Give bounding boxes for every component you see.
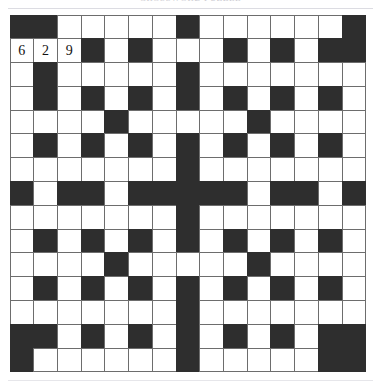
grid-cell-open[interactable] — [81, 252, 106, 277]
grid-cell-open[interactable] — [199, 110, 224, 135]
grid-cell-open[interactable] — [104, 62, 129, 87]
grid-cell-open[interactable] — [104, 229, 129, 254]
grid-cell-open[interactable] — [104, 15, 129, 40]
grid-cell-open[interactable] — [294, 205, 319, 230]
grid-cell-open[interactable] — [10, 110, 35, 135]
grid-cell-open[interactable] — [57, 86, 82, 111]
grid-cell-open[interactable] — [247, 276, 272, 301]
grid-cell-open[interactable] — [270, 157, 295, 182]
grid-cell-open[interactable] — [223, 157, 248, 182]
grid-cell-open[interactable] — [318, 300, 343, 325]
grid-cell-open[interactable] — [247, 324, 272, 349]
grid-cell-open[interactable] — [294, 157, 319, 182]
grid-cell-open[interactable] — [294, 229, 319, 254]
grid-cell-open[interactable] — [104, 300, 129, 325]
grid-cell-open[interactable] — [199, 276, 224, 301]
grid-cell-open[interactable] — [128, 300, 153, 325]
grid-cell-open[interactable] — [318, 15, 343, 40]
grid-cell-open[interactable] — [152, 205, 177, 230]
grid-cell-open[interactable] — [104, 157, 129, 182]
grid-cell-open[interactable] — [33, 181, 58, 206]
grid-cell-open[interactable] — [294, 252, 319, 277]
grid-cell-open[interactable] — [57, 62, 82, 87]
grid-cell-open[interactable] — [128, 110, 153, 135]
grid-cell-open[interactable] — [247, 62, 272, 87]
grid-cell-open[interactable] — [10, 252, 35, 277]
grid-cell-open[interactable] — [152, 324, 177, 349]
grid-cell-open[interactable] — [10, 276, 35, 301]
grid-cell-open[interactable] — [247, 38, 272, 63]
grid-cell-open[interactable] — [10, 205, 35, 230]
grid-cell-open[interactable] — [33, 205, 58, 230]
grid-cell-open[interactable] — [318, 252, 343, 277]
grid-cell-open[interactable] — [247, 181, 272, 206]
grid-cell-open[interactable] — [294, 110, 319, 135]
grid-cell-open[interactable] — [342, 157, 367, 182]
grid-cell-open[interactable] — [152, 38, 177, 63]
grid-cell-open[interactable] — [152, 276, 177, 301]
grid-cell-open[interactable] — [223, 252, 248, 277]
grid-cell-open[interactable]: 2 — [33, 38, 58, 63]
grid-cell-open[interactable] — [152, 300, 177, 325]
grid-cell-open[interactable] — [199, 15, 224, 40]
grid-cell-open[interactable] — [318, 110, 343, 135]
grid-cell-open[interactable] — [128, 62, 153, 87]
grid-cell-open[interactable] — [294, 276, 319, 301]
grid-cell-open[interactable] — [81, 110, 106, 135]
grid-cell-open[interactable] — [10, 62, 35, 87]
grid-cell-open[interactable] — [176, 252, 201, 277]
grid-cell-open[interactable] — [294, 300, 319, 325]
grid-cell-open[interactable] — [104, 205, 129, 230]
grid-cell-open[interactable] — [104, 276, 129, 301]
grid-cell-open[interactable] — [152, 133, 177, 158]
grid-cell-open[interactable] — [270, 15, 295, 40]
grid-cell-open[interactable] — [152, 15, 177, 40]
grid-cell-open[interactable] — [199, 348, 224, 373]
grid-cell-open[interactable] — [270, 110, 295, 135]
grid-cell-open[interactable] — [199, 62, 224, 87]
grid-cell-open[interactable] — [342, 133, 367, 158]
grid-cell-open[interactable] — [81, 157, 106, 182]
grid-cell-open[interactable] — [199, 300, 224, 325]
grid-cell-open[interactable] — [81, 300, 106, 325]
grid-cell-open[interactable] — [247, 348, 272, 373]
grid-cell-open[interactable] — [247, 205, 272, 230]
grid-cell-open[interactable] — [152, 110, 177, 135]
grid-cell-open[interactable] — [33, 252, 58, 277]
grid-cell-open[interactable] — [294, 324, 319, 349]
grid-cell-open[interactable] — [199, 133, 224, 158]
grid-cell-open[interactable] — [176, 110, 201, 135]
grid-cell-open[interactable] — [294, 86, 319, 111]
grid-cell-open[interactable] — [57, 133, 82, 158]
grid-cell-open[interactable] — [10, 86, 35, 111]
grid-cell-open[interactable] — [199, 86, 224, 111]
grid-cell-open[interactable] — [223, 62, 248, 87]
grid-cell-open[interactable] — [318, 62, 343, 87]
grid-cell-open[interactable] — [318, 205, 343, 230]
grid-cell-open[interactable] — [223, 110, 248, 135]
grid-cell-open[interactable] — [152, 252, 177, 277]
grid-cell-open[interactable] — [81, 205, 106, 230]
grid-cell-open[interactable] — [10, 300, 35, 325]
grid-cell-open[interactable] — [57, 157, 82, 182]
grid-cell-open[interactable] — [104, 348, 129, 373]
grid-cell-open[interactable] — [270, 62, 295, 87]
grid-cell-open[interactable] — [10, 157, 35, 182]
grid-cell-open[interactable] — [57, 229, 82, 254]
grid-cell-open[interactable] — [81, 348, 106, 373]
grid-cell-open[interactable] — [270, 348, 295, 373]
grid-cell-open[interactable] — [199, 252, 224, 277]
grid-cell-open[interactable] — [152, 62, 177, 87]
grid-cell-open[interactable] — [342, 62, 367, 87]
grid-cell-open[interactable] — [342, 110, 367, 135]
grid-cell-open[interactable] — [33, 300, 58, 325]
grid-cell-open[interactable] — [128, 15, 153, 40]
grid-cell-open[interactable] — [57, 276, 82, 301]
grid-cell-open[interactable] — [57, 110, 82, 135]
grid-cell-open[interactable] — [247, 86, 272, 111]
grid-cell-open[interactable] — [104, 133, 129, 158]
grid-cell-open[interactable] — [342, 276, 367, 301]
grid-cell-open[interactable] — [199, 205, 224, 230]
grid-cell-open[interactable] — [104, 86, 129, 111]
grid-cell-open[interactable] — [342, 229, 367, 254]
